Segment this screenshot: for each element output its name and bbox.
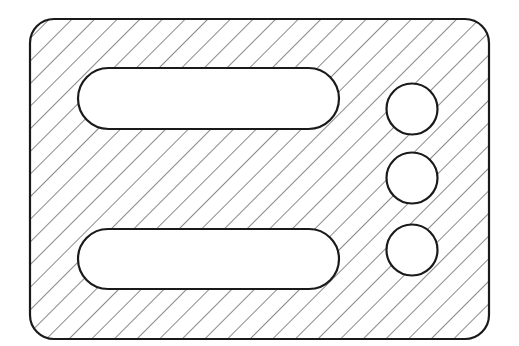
hole-top [387,84,438,135]
hatched-plate-diagram [0,0,519,346]
hole-middle [387,153,438,204]
hole-bottom [387,225,438,276]
plate [30,19,489,339]
upper-slot [78,68,339,129]
lower-slot [78,229,339,289]
